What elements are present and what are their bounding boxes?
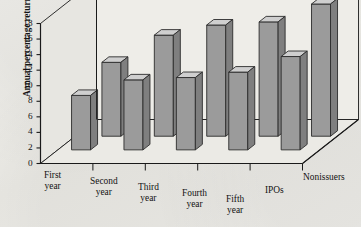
y-tick-label: 8: [17, 96, 33, 105]
depth-axis-label: Nonissuers: [303, 172, 345, 182]
bar-side-face: [143, 74, 150, 150]
x-category-label: Fourthyear: [182, 188, 207, 209]
bar-front-face: [259, 22, 278, 136]
bar-front-face: [176, 78, 195, 150]
bar-front-face: [154, 35, 173, 136]
bar-front-face: [207, 25, 226, 136]
x-category-label: Thirdyear: [138, 182, 159, 203]
bar-front-face: [72, 95, 91, 149]
bar-front-face: [281, 57, 300, 150]
bar-front-face: [229, 72, 248, 150]
y-tick-label: 2: [17, 143, 33, 152]
x-category-line: year: [186, 199, 202, 209]
bar-side-face: [331, 0, 338, 136]
x-category-line: Fourth: [182, 188, 207, 198]
y-tick-label: 4: [17, 127, 33, 136]
y-tick-label: 12: [17, 65, 33, 74]
bar-front-face: [124, 80, 143, 150]
x-category-line: year: [227, 205, 243, 215]
y-tick-label: 14: [17, 50, 33, 59]
y-tick-label: 10: [17, 81, 33, 90]
bar-front-face: [102, 62, 121, 136]
y-tick-label: 16: [17, 34, 33, 43]
x-category-line: Fifth: [226, 194, 244, 204]
chart-3d-bar: Annual percentage returns 02468101214161…: [0, 0, 361, 227]
y-tick-label: 18: [17, 19, 33, 28]
bar-side-face: [300, 51, 307, 150]
y-tick-label: 6: [17, 112, 33, 121]
y-tick-label: 0: [17, 159, 33, 168]
x-category-label: Fifthyear: [226, 194, 244, 215]
x-category-line: Third: [138, 182, 159, 192]
x-category-line: Second: [90, 176, 118, 186]
chart-canvas: [0, 0, 361, 227]
bar-front-face: [312, 4, 331, 136]
bar-side-face: [195, 72, 202, 150]
bar-side-face: [248, 67, 255, 150]
x-category-label: Secondyear: [90, 176, 118, 197]
depth-axis-label: IPOs: [265, 185, 284, 195]
x-category-line: year: [45, 181, 61, 191]
x-category-label: Firstyear: [44, 170, 61, 191]
x-category-line: First: [44, 170, 61, 180]
x-category-line: year: [140, 193, 156, 203]
x-category-line: year: [96, 187, 112, 197]
